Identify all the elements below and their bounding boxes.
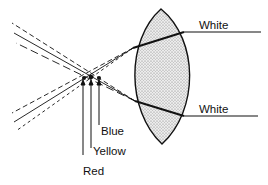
label-white-top: White (199, 19, 228, 31)
refracted-rays-bottom (12, 23, 135, 101)
arrow-blue (97, 80, 101, 85)
focal-point-yellow (89, 75, 94, 80)
arrow-red (81, 80, 85, 85)
label-yellow: Yellow (93, 145, 127, 157)
arrow-yellow (89, 80, 93, 85)
focal-points (82, 75, 101, 80)
focal-point-red (82, 76, 86, 80)
label-white-bottom: White (199, 103, 228, 115)
convex-lens (135, 9, 190, 144)
chromatic-aberration-diagram: White White Blue Yellow Red (0, 0, 268, 185)
label-blue: Blue (101, 125, 124, 137)
leader-lines (81, 80, 101, 155)
label-red: Red (83, 165, 104, 177)
